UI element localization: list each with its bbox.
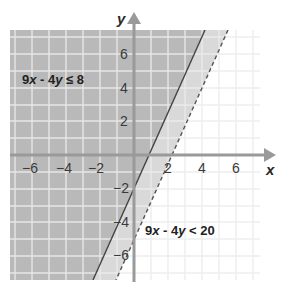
y-axis-label: y: [116, 10, 126, 27]
inequality-graph: y x −6 −4 −2 2 4 6 6 4 2 −2 −4 −6 9x - 4…: [0, 0, 285, 295]
y-tick: −4: [113, 214, 129, 230]
x-tick: 6: [232, 160, 240, 176]
x-tick: −4: [56, 160, 72, 176]
x-tick: −2: [88, 160, 104, 176]
y-tick: 6: [120, 46, 128, 62]
annotation-ineq-lt-20: 9x - 4y < 20: [145, 223, 215, 238]
x-axis-arrow-icon: [264, 148, 276, 162]
y-tick: −2: [113, 180, 129, 196]
annotation-ineq-le-8: 9x - 4y ≤ 8: [22, 72, 84, 87]
y-tick: −6: [113, 247, 129, 263]
y-axis-arrow-icon: [127, 12, 141, 24]
x-axis-label: x: [265, 161, 275, 178]
x-tick: 2: [164, 160, 172, 176]
x-tick: −6: [22, 160, 38, 176]
y-tick: 4: [120, 80, 128, 96]
y-tick: 2: [120, 113, 128, 129]
x-tick: 4: [198, 160, 206, 176]
